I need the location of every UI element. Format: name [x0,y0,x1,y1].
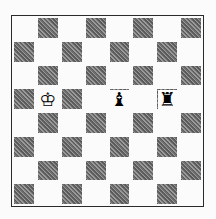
square-b1[interactable] [36,182,60,206]
square-b5[interactable]: ♔ [36,87,60,111]
chess-board: ♔♝♜ [11,15,204,207]
square-f2[interactable] [131,159,155,183]
square-f1[interactable] [131,182,155,206]
square-d3[interactable] [84,135,108,159]
square-h2[interactable] [179,159,203,183]
square-e8[interactable] [108,16,132,40]
square-h3[interactable] [179,135,203,159]
square-b3[interactable] [36,135,60,159]
square-b8[interactable] [36,16,60,40]
square-d4[interactable] [84,111,108,135]
square-d2[interactable] [84,159,108,183]
square-a8[interactable] [12,16,36,40]
square-g3[interactable] [155,135,179,159]
square-f8[interactable] [131,16,155,40]
square-h5[interactable] [179,87,203,111]
square-b6[interactable] [36,64,60,88]
square-g4[interactable] [155,111,179,135]
square-d5[interactable] [84,87,108,111]
square-e3[interactable] [108,135,132,159]
square-a7[interactable] [12,40,36,64]
square-a6[interactable] [12,64,36,88]
square-d6[interactable] [84,64,108,88]
square-a1[interactable] [12,182,36,206]
square-f7[interactable] [131,40,155,64]
square-c7[interactable] [60,40,84,64]
square-b4[interactable] [36,111,60,135]
square-h1[interactable] [179,182,203,206]
white-king-icon[interactable]: ♔ [39,90,56,109]
square-e4[interactable] [108,111,132,135]
square-d8[interactable] [84,16,108,40]
square-f3[interactable] [131,135,155,159]
square-g1[interactable] [155,182,179,206]
square-d7[interactable] [84,40,108,64]
square-e7[interactable] [108,40,132,64]
black-bishop-icon[interactable]: ♝ [110,90,129,109]
square-g8[interactable] [155,16,179,40]
square-h7[interactable] [179,40,203,64]
square-h4[interactable] [179,111,203,135]
square-e6[interactable] [108,64,132,88]
square-e5[interactable]: ♝ [108,87,132,111]
square-b7[interactable] [36,40,60,64]
square-d1[interactable] [84,182,108,206]
square-g6[interactable] [155,64,179,88]
square-c4[interactable] [60,111,84,135]
square-f5[interactable] [131,87,155,111]
black-rook-icon[interactable]: ♜ [158,90,177,109]
square-a3[interactable] [12,135,36,159]
square-c6[interactable] [60,64,84,88]
square-g7[interactable] [155,40,179,64]
square-c3[interactable] [60,135,84,159]
square-c8[interactable] [60,16,84,40]
square-a4[interactable] [12,111,36,135]
square-h6[interactable] [179,64,203,88]
square-e2[interactable] [108,159,132,183]
square-g2[interactable] [155,159,179,183]
square-h8[interactable] [179,16,203,40]
square-a2[interactable] [12,159,36,183]
square-e1[interactable] [108,182,132,206]
square-f4[interactable] [131,111,155,135]
square-c1[interactable] [60,182,84,206]
square-a5[interactable] [12,87,36,111]
square-f6[interactable] [131,64,155,88]
square-c2[interactable] [60,159,84,183]
square-c5[interactable] [60,87,84,111]
square-g5[interactable]: ♜ [155,87,179,111]
square-b2[interactable] [36,159,60,183]
